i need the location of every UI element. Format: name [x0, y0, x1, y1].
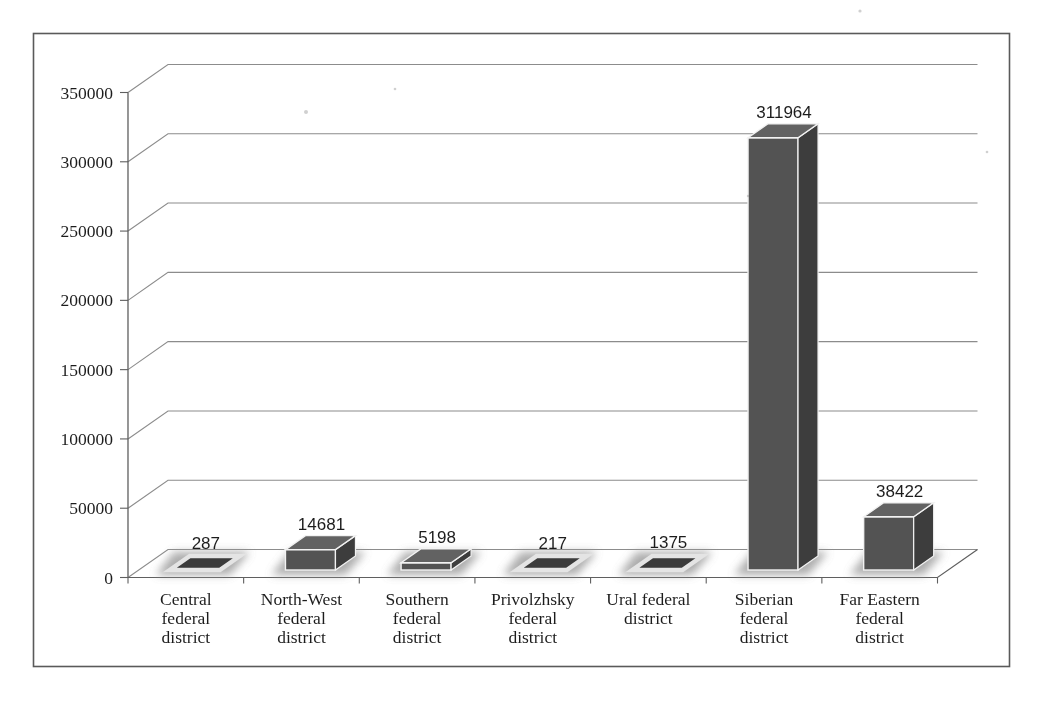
x-axis-category-label: district — [393, 627, 442, 647]
x-axis-category-label: Ural federal — [606, 589, 690, 609]
x-axis-category-label: district — [508, 627, 557, 647]
x-axis-category-label: Southern — [386, 589, 449, 609]
x-axis-category-label: Far Eastern — [840, 589, 920, 609]
bar: 14681 — [271, 515, 365, 575]
y-axis-label: 50000 — [69, 498, 113, 518]
bar: 287 — [156, 534, 250, 575]
gridline — [128, 134, 978, 162]
x-axis-category-label: district — [624, 608, 673, 628]
y-axis-label: 100000 — [61, 429, 114, 449]
bar-chart-3d: 2871468151982171375311964384220500001000… — [0, 0, 1038, 702]
gridline — [128, 272, 978, 300]
y-axis-label: 150000 — [61, 360, 114, 380]
bar-value-label: 287 — [192, 534, 220, 553]
page: 2871468151982171375311964384220500001000… — [0, 0, 1038, 702]
x-axis-category-label: Privolzhsky — [491, 589, 575, 609]
bar-front-face — [401, 563, 451, 570]
x-axis-category-label: district — [740, 627, 789, 647]
x-axis-category-label: Central — [160, 589, 212, 609]
y-axis-label: 350000 — [61, 83, 114, 103]
gridline — [128, 480, 978, 508]
chart-root: 2871468151982171375311964384220500001000… — [34, 9, 1010, 666]
x-axis-category-label: federal — [508, 608, 557, 628]
bar: 217 — [503, 534, 597, 575]
x-axis-category-label: Siberian — [735, 589, 794, 609]
gridline — [128, 203, 978, 231]
bar-front-face — [748, 138, 798, 570]
x-axis-category-label: federal — [162, 608, 211, 628]
scan-speck — [304, 110, 308, 114]
x-axis-category-label: district — [162, 627, 211, 647]
y-axis-label: 250000 — [61, 221, 114, 241]
scan-speck — [747, 195, 749, 197]
bar: 1375 — [618, 533, 712, 575]
gridline — [128, 342, 978, 370]
bar: 38422 — [850, 482, 944, 575]
x-axis-category-label: federal — [393, 608, 442, 628]
gridline — [128, 411, 978, 439]
x-axis-category-label: federal — [740, 608, 789, 628]
x-axis-category-label: federal — [277, 608, 326, 628]
x-axis-category-label: federal — [855, 608, 904, 628]
x-axis-category-label: district — [855, 627, 904, 647]
bar-front-face — [285, 550, 335, 570]
bar: 311964 — [734, 103, 828, 575]
bar-front-face — [864, 517, 914, 570]
x-axis-category-label: North-West — [261, 589, 342, 609]
bar-value-label: 14681 — [298, 515, 345, 534]
y-axis-label: 200000 — [61, 290, 114, 310]
x-axis-category-label: district — [277, 627, 326, 647]
bar-value-label: 1375 — [649, 533, 687, 552]
scan-speck — [858, 9, 861, 12]
bar-value-label: 38422 — [876, 482, 923, 501]
y-axis-label: 0 — [104, 568, 113, 588]
scan-speck — [986, 151, 989, 154]
bar-value-label: 311964 — [756, 103, 811, 122]
bar-side-face — [798, 124, 818, 570]
bar-value-label: 217 — [539, 534, 567, 553]
scan-speck — [394, 88, 397, 91]
bar-value-label: 5198 — [418, 528, 456, 547]
y-axis-label: 300000 — [61, 152, 114, 172]
bar: 5198 — [387, 528, 481, 575]
gridline — [128, 65, 978, 93]
